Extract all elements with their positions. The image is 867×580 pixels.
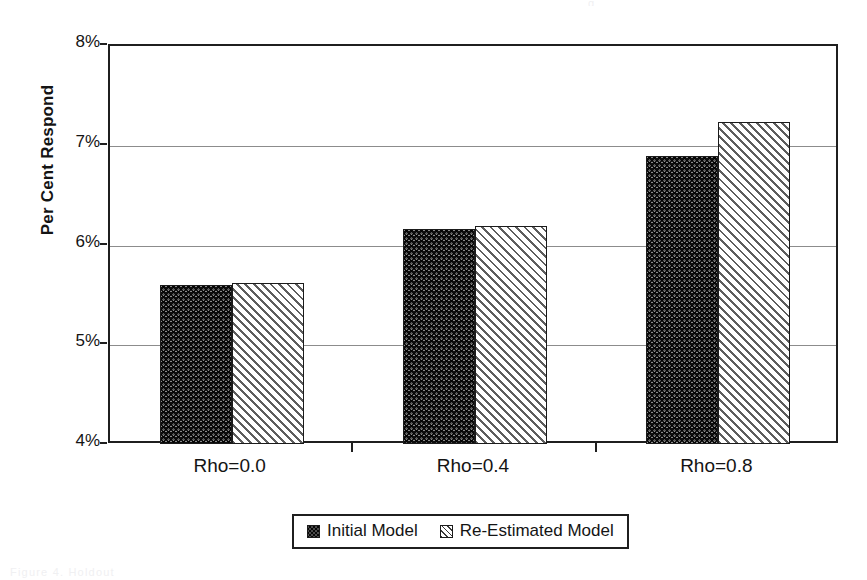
bar-rho-0-8-re-estimated-model bbox=[718, 122, 790, 444]
y-axis-tick-mark bbox=[100, 442, 107, 444]
legend-entry: Re-Estimated Model bbox=[440, 521, 614, 541]
x-axis-tick-mark bbox=[595, 443, 597, 452]
legend-label: Initial Model bbox=[327, 521, 418, 541]
legend-entry: Initial Model bbox=[307, 521, 418, 541]
y-axis-tick-label: 7% bbox=[40, 132, 100, 152]
y-axis-tick-label: 6% bbox=[40, 232, 100, 252]
y-axis-tick-label: 4% bbox=[40, 431, 100, 451]
x-axis-tick-label: Rho=0.4 bbox=[373, 455, 573, 477]
plot-area bbox=[108, 44, 838, 443]
legend-swatch-icon bbox=[307, 525, 320, 538]
y-axis-tick-mark bbox=[100, 243, 107, 245]
chart-legend: Initial ModelRe-Estimated Model bbox=[292, 514, 629, 549]
scan-artifact-bottom: Figure 4. Holdout bbox=[10, 566, 115, 578]
y-axis-tick-mark bbox=[100, 43, 107, 45]
bar-rho-0-4-re-estimated-model bbox=[475, 226, 547, 444]
y-axis-tick-mark bbox=[100, 342, 107, 344]
scan-artifact-top: g bbox=[588, 0, 595, 6]
legend-swatch-icon bbox=[440, 525, 453, 538]
x-axis-tick-label: Rho=0.8 bbox=[616, 455, 816, 477]
y-axis-tick-mark bbox=[100, 143, 107, 145]
bar-rho-0-0-initial-model bbox=[160, 285, 232, 444]
bar-rho-0-8-initial-model bbox=[646, 156, 718, 444]
y-axis-tick-label: 5% bbox=[40, 331, 100, 351]
chart-figure: g Per Cent Respond 8%7%6%5%4% Rho=0.0Rho… bbox=[0, 0, 867, 580]
y-axis-tick-label: 8% bbox=[40, 32, 100, 52]
x-axis-tick-label: Rho=0.0 bbox=[130, 455, 330, 477]
bar-rho-0-0-re-estimated-model bbox=[232, 283, 304, 444]
bar-rho-0-4-initial-model bbox=[403, 229, 475, 444]
legend-label: Re-Estimated Model bbox=[460, 521, 614, 541]
x-axis-tick-mark bbox=[351, 443, 353, 452]
